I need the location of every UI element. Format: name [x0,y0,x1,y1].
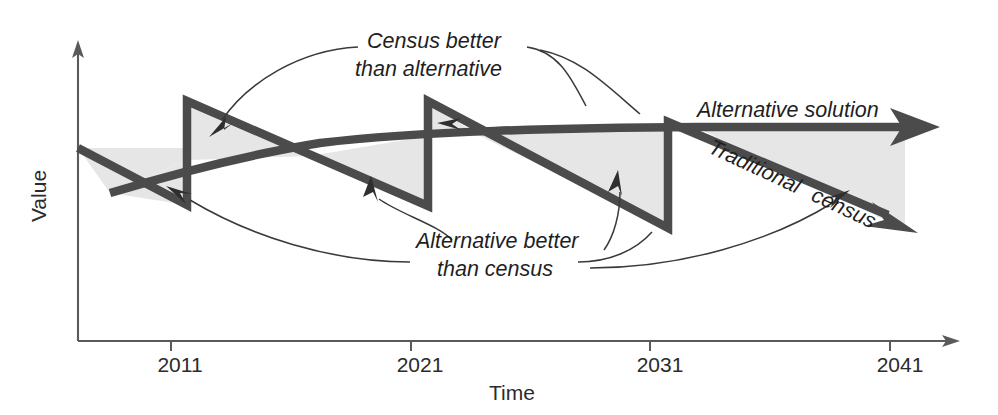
chart-figure: 2011 2021 2031 2041 Time Value [0,0,998,415]
annotation-census-better-line2: than alternative [355,57,502,81]
leader-alternative-better-right [578,232,652,262]
x-axis-title: Time [489,381,535,404]
series-label-alternative-solution: Alternative solution [695,98,879,122]
annotation-census-better-line1: Census better [367,29,502,53]
x-tick-label-2031: 2031 [637,353,684,376]
x-tick-label-2011: 2011 [157,353,202,376]
leader-census-better-left [222,47,358,120]
leader-alternative-better-left [190,200,410,262]
annotation-alternative-better: Alternative better than census [414,229,579,281]
leader-alternative-better-far [590,202,834,268]
leader-census-better-right [527,47,586,106]
annotation-alternative-better-line1: Alternative better [414,229,579,253]
y-axis-title: Value [27,170,50,222]
chart-canvas: 2011 2021 2031 2041 Time Value [0,0,998,415]
x-tick-labels: 2011 2021 2031 2041 [157,353,923,376]
x-tick-label-2041: 2041 [877,353,924,376]
annotation-alternative-better-line2: than census [437,257,553,281]
x-tick-label-2021: 2021 [397,353,444,376]
annotation-census-better: Census better than alternative [355,29,502,81]
